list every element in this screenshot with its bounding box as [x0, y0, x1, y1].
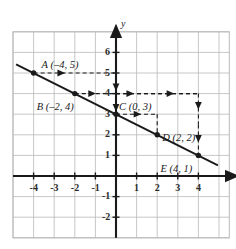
y-tick-label: 6 — [105, 47, 110, 57]
point-label-C: C (0, 3) — [119, 102, 151, 113]
point-marker-C — [113, 112, 118, 117]
point-label-D: D (2, 2) — [162, 133, 195, 144]
point-label-B: B (–2, 4) — [37, 102, 74, 113]
y-tick-label: -1 — [102, 191, 110, 201]
y-tick-label: -2 — [102, 212, 110, 222]
x-tick-label: 2 — [155, 183, 160, 193]
arrowhead-right-b-to-yaxis — [88, 90, 96, 97]
y-tick-label: 1 — [105, 150, 110, 160]
point-marker-D — [155, 132, 160, 137]
coordinate-plane-graph: A (–4, 5)B (–2, 4)C (0, 3)D (2, 2)E (4, … — [0, 0, 236, 249]
y-tick-label: 5 — [105, 68, 110, 78]
arrowhead-right-yaxis-4-to-x4-b — [167, 90, 175, 97]
y-axis-label: y — [121, 19, 125, 29]
x-tick-label: 1 — [134, 183, 139, 193]
x-tick-label: 4 — [196, 183, 201, 193]
arrowhead-right-a-to-yaxis — [57, 70, 65, 77]
arrowhead-down-x4-down-upper — [195, 102, 202, 110]
x-tick-label: 3 — [175, 183, 180, 193]
point-label-A: A (–4, 5) — [42, 60, 79, 71]
point-marker-A — [31, 70, 36, 75]
arrowhead-down-yaxis-5-to-4 — [113, 83, 120, 91]
graph-canvas — [0, 0, 236, 249]
x-tick-label: -2 — [71, 183, 79, 193]
y-tick-label: 2 — [105, 129, 110, 139]
x-tick-label: -3 — [50, 183, 58, 193]
x-tick-label: -1 — [91, 183, 99, 193]
point-marker-E — [196, 153, 201, 158]
arrowhead-down-x4-down-lower — [195, 135, 202, 143]
y-tick-label: 4 — [105, 88, 110, 98]
point-marker-B — [72, 91, 77, 96]
x-tick-label: -4 — [30, 183, 38, 193]
point-label-E: E (4, 1) — [160, 164, 192, 175]
axes — [13, 26, 236, 238]
y-tick-label: 3 — [105, 109, 110, 119]
